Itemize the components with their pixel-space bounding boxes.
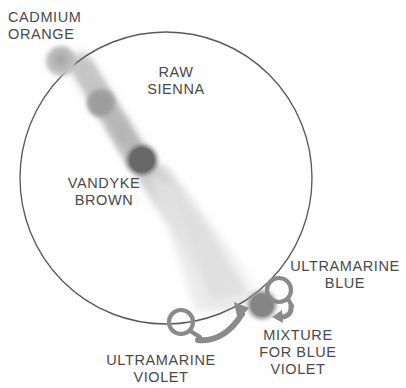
label-ultramarine-blue: ULTRAMARINE BLUE [286, 258, 404, 292]
label-ultramarine-violet: ULTRAMARINE VIOLET [101, 352, 221, 386]
label-raw-sienna: RAW SIENNA [128, 64, 224, 98]
mixture-for-blue-violet-swatch [248, 291, 276, 319]
vandyke-brown-swatch [127, 145, 157, 175]
diagram-canvas: CADMIUM ORANGE RAW SIENNA VANDYKE BROWN … [0, 0, 406, 388]
raw-sienna-swatch [87, 89, 115, 117]
label-vandyke-brown: VANDYKE BROWN [48, 175, 160, 209]
label-mixture-for-blue-violet: MIXTURE FOR BLUE VIOLET [248, 327, 348, 378]
label-cadmium-orange: CADMIUM ORANGE [8, 9, 81, 43]
cadmium-orange-swatch [46, 46, 76, 76]
